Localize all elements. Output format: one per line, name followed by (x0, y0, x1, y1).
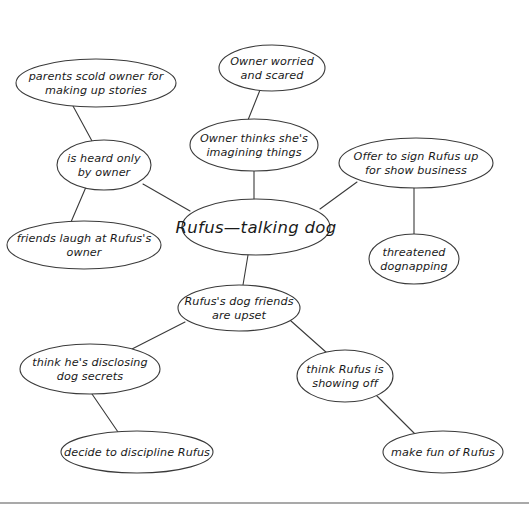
node-label-owner-worried: Owner worried (230, 55, 314, 68)
node-outline-showing-off (297, 350, 393, 402)
edge-showing-off-to-make-fun-of-rufus (377, 396, 415, 434)
edge-center-to-is-heard-only-by-owner (143, 184, 190, 211)
edge-dog-friends-upset-to-disclosing-dog-secrets (132, 322, 185, 349)
node-label-threatened-dognapping: dognapping (380, 260, 448, 273)
node-label-offer-show-business: for show business (365, 164, 467, 177)
node-label-dog-friends-upset: are upset (212, 309, 267, 322)
node-label-showing-off: showing off (312, 377, 380, 390)
node-friends-laugh[interactable]: friends laugh at Rufus'sowner (7, 221, 161, 269)
node-parents-scold-owner[interactable]: parents scold owner formaking up stories (16, 59, 176, 107)
node-disclosing-dog-secrets[interactable]: think he's disclosingdog secrets (20, 344, 160, 394)
node-label-owner-thinks-imagining: imagining things (206, 146, 301, 159)
edge-is-heard-only-by-owner-to-friends-laugh (71, 187, 86, 222)
node-outline-is-heard-only-by-owner (57, 140, 151, 190)
node-outline-offer-show-business (339, 138, 493, 188)
node-label-owner-worried: and scared (240, 69, 304, 82)
node-label-decide-discipline: decide to discipline Rufus (64, 446, 210, 459)
edge-center-to-dog-friends-upset (243, 255, 248, 285)
node-label-parents-scold-owner: making up stories (45, 84, 147, 97)
node-outline-disclosing-dog-secrets (20, 344, 160, 394)
node-owner-worried[interactable]: Owner worriedand scared (219, 45, 325, 91)
node-label-threatened-dognapping: threatened (382, 246, 446, 259)
edge-disclosing-dog-secrets-to-decide-discipline (92, 394, 118, 432)
node-outline-threatened-dognapping (369, 234, 459, 284)
node-label-is-heard-only-by-owner: by owner (78, 166, 132, 179)
node-showing-off[interactable]: think Rufus isshowing off (297, 350, 393, 402)
node-is-heard-only-by-owner[interactable]: is heard onlyby owner (57, 140, 151, 190)
mind-map-page: parents scold owner formaking up stories… (0, 0, 529, 517)
node-label-disclosing-dog-secrets: dog secrets (57, 370, 123, 383)
node-label-make-fun-of-rufus: make fun of Rufus (391, 446, 495, 459)
edge-center-to-offer-show-business (320, 182, 357, 209)
nodes-layer: parents scold owner formaking up stories… (7, 45, 503, 473)
node-label-dog-friends-upset: Rufus's dog friends (184, 295, 293, 308)
node-decide-discipline[interactable]: decide to discipline Rufus (61, 431, 213, 473)
node-outline-friends-laugh (7, 221, 161, 269)
node-label-offer-show-business: Offer to sign Rufus up (354, 150, 479, 163)
edge-is-heard-only-by-owner-to-parents-scold-owner (73, 106, 92, 141)
node-label-parents-scold-owner: parents scold owner for (28, 70, 165, 83)
node-threatened-dognapping[interactable]: threateneddognapping (369, 234, 459, 284)
node-label-friends-laugh: friends laugh at Rufus's (17, 232, 152, 245)
mind-map-diagram: parents scold owner formaking up stories… (0, 0, 529, 517)
node-label-owner-thinks-imagining: Owner thinks she's (200, 132, 308, 145)
node-center[interactable]: Rufus—talking dog (176, 199, 337, 255)
node-outline-dog-friends-upset (178, 285, 300, 331)
node-label-center: Rufus—talking dog (176, 218, 337, 237)
node-outline-owner-thinks-imagining (190, 119, 318, 171)
edge-dog-friends-upset-to-showing-off (291, 321, 327, 353)
node-dog-friends-upset[interactable]: Rufus's dog friendsare upset (178, 285, 300, 331)
node-outline-parents-scold-owner (16, 59, 176, 107)
node-label-friends-laugh: owner (66, 246, 102, 259)
node-label-is-heard-only-by-owner: is heard only (67, 152, 141, 165)
node-offer-show-business[interactable]: Offer to sign Rufus upfor show business (339, 138, 493, 188)
node-label-showing-off: think Rufus is (306, 363, 383, 376)
node-label-disclosing-dog-secrets: think he's disclosing (32, 356, 148, 369)
node-outline-owner-worried (219, 45, 325, 91)
node-make-fun-of-rufus[interactable]: make fun of Rufus (383, 431, 503, 473)
node-owner-thinks-imagining[interactable]: Owner thinks she'simagining things (190, 119, 318, 171)
edge-owner-thinks-imagining-to-owner-worried (248, 90, 260, 120)
